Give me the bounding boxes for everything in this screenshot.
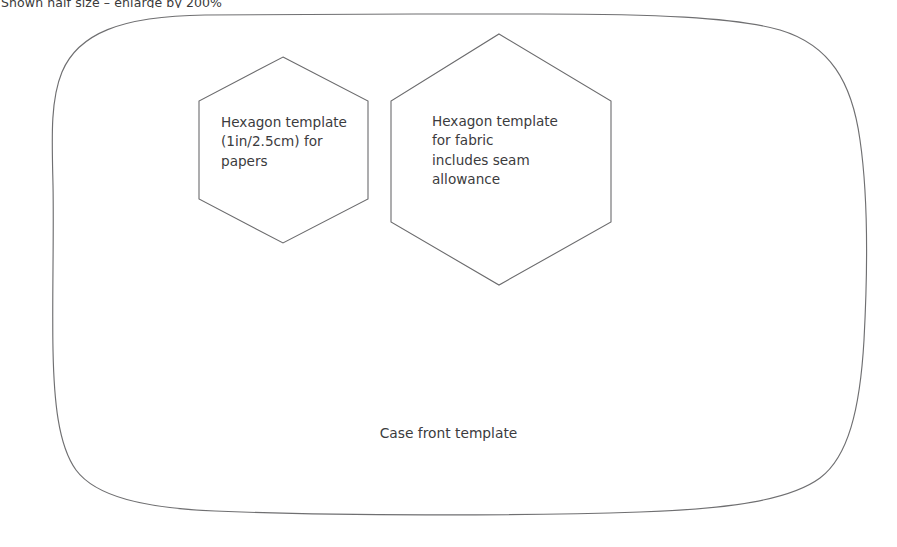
scale-caption: Shown half size – enlarge by 200% bbox=[1, 0, 222, 8]
caption-clip: Shown half size – enlarge by 200% bbox=[0, 0, 320, 8]
hexagon-papers-label: Hexagon template (1in/2.5cm) for papers bbox=[221, 113, 371, 171]
pattern-drawing bbox=[0, 0, 897, 547]
case-front-label: Case front template bbox=[0, 424, 897, 444]
hexagon-fabric-label: Hexagon template for fabric includes sea… bbox=[432, 112, 582, 189]
pattern-sheet: Shown half size – enlarge by 200% Hexago… bbox=[0, 0, 897, 547]
